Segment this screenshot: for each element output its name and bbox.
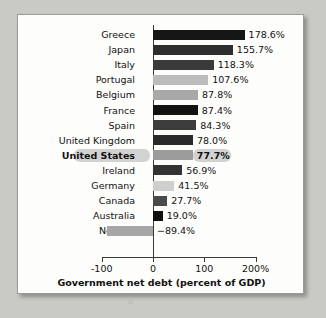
- bar: [153, 150, 193, 160]
- bar-row: Norway−89.4%: [18, 223, 305, 238]
- screenshot-root: -1000100200% Government net debt (percen…: [0, 0, 326, 318]
- bar: [153, 181, 174, 191]
- bar-row: Spain84.3%: [18, 118, 305, 133]
- value-label: 78.0%: [197, 133, 227, 148]
- bar-chart-plot: -1000100200% Government net debt (percen…: [18, 15, 305, 295]
- category-label: United States: [18, 148, 140, 163]
- value-label: 87.4%: [202, 103, 232, 118]
- value-label: 87.8%: [202, 87, 232, 102]
- bar: [153, 45, 233, 55]
- value-label: 56.9%: [186, 163, 216, 178]
- bar-row: Australia19.0%: [18, 208, 305, 223]
- category-label: Japan: [18, 42, 140, 57]
- bar-row: Ireland56.9%: [18, 163, 305, 178]
- bar-row: Greece178.6%: [18, 27, 305, 42]
- category-label: Ireland: [18, 163, 140, 178]
- bar-row: Belgium87.8%: [18, 87, 305, 102]
- bar: [153, 135, 193, 145]
- x-tick-label: 200%: [233, 263, 279, 274]
- x-tick: [153, 257, 154, 262]
- value-label: 19.0%: [167, 208, 197, 223]
- bar-row: Germany41.5%: [18, 178, 305, 193]
- x-axis-line: [102, 257, 256, 258]
- bar: [153, 196, 167, 206]
- category-label: Canada: [18, 193, 140, 208]
- category-label: Germany: [18, 178, 140, 193]
- bar-row: France87.4%: [18, 103, 305, 118]
- value-label: 27.7%: [171, 193, 201, 208]
- value-label: 155.7%: [237, 42, 273, 57]
- bar-row: United Kingdom78.0%: [18, 133, 305, 148]
- bar: [153, 90, 198, 100]
- category-label: France: [18, 103, 140, 118]
- value-label: −89.4%: [157, 223, 195, 238]
- value-label: 107.6%: [212, 72, 248, 87]
- bar: [153, 120, 196, 130]
- category-label: Italy: [18, 57, 140, 72]
- value-label: 77.7%: [197, 148, 230, 163]
- value-label: 41.5%: [178, 178, 208, 193]
- bar: [153, 211, 163, 221]
- bar-row: Japan155.7%: [18, 42, 305, 57]
- bar: [153, 60, 214, 70]
- x-tick-label: 0: [130, 263, 176, 274]
- category-label: United Kingdom: [18, 133, 140, 148]
- bar: [107, 226, 153, 236]
- bar: [153, 75, 208, 85]
- value-label: 84.3%: [200, 118, 230, 133]
- x-tick-label: 100: [181, 263, 227, 274]
- bar-row: United States77.7%: [18, 148, 305, 163]
- bar: [153, 105, 198, 115]
- category-label: Australia: [18, 208, 140, 223]
- x-tick: [102, 257, 103, 262]
- category-label: Portugal: [18, 72, 140, 87]
- x-tick-label: -100: [79, 263, 125, 274]
- chart-panel: -1000100200% Government net debt (percen…: [17, 14, 304, 294]
- bar: [153, 30, 245, 40]
- bar-row: Italy118.3%: [18, 57, 305, 72]
- bar-row: Portugal107.6%: [18, 72, 305, 87]
- value-label: 178.6%: [249, 27, 285, 42]
- x-tick: [204, 257, 205, 262]
- bar: [153, 165, 182, 175]
- x-axis-title: Government net debt (percent of GDP): [18, 277, 305, 288]
- category-label: Belgium: [18, 87, 140, 102]
- x-tick: [256, 257, 257, 262]
- category-label: Spain: [18, 118, 140, 133]
- value-label: 118.3%: [218, 57, 254, 72]
- bar-row: Canada27.7%: [18, 193, 305, 208]
- category-label: Greece: [18, 27, 140, 42]
